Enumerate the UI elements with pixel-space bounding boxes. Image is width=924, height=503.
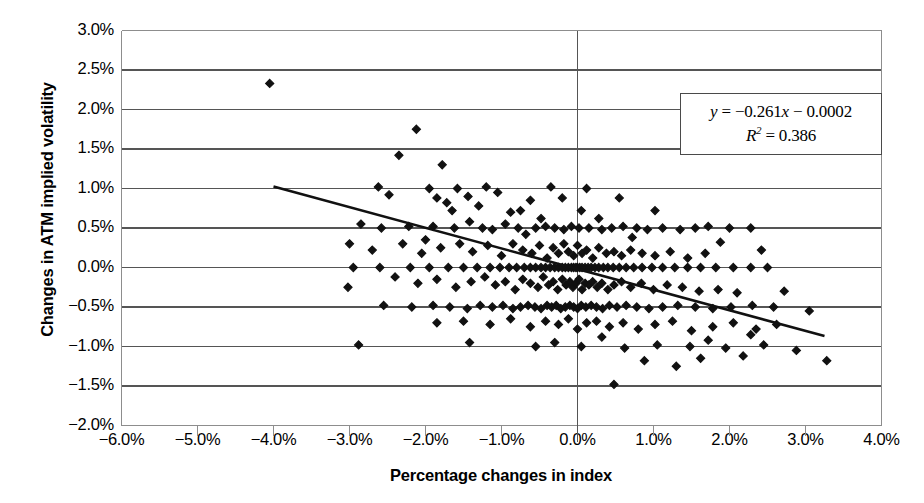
data-point-marker — [712, 263, 720, 271]
data-point-marker — [357, 220, 365, 228]
data-point-marker — [345, 240, 353, 248]
data-point-marker — [476, 301, 484, 309]
data-point-marker — [585, 224, 593, 232]
data-point-marker — [595, 244, 603, 252]
data-point-marker — [539, 273, 547, 281]
data-point-marker — [602, 249, 610, 257]
data-point-marker — [604, 286, 612, 294]
regression-equation-line: y = −0.261x − 0.0002 — [687, 101, 875, 123]
data-point-marker — [630, 263, 638, 271]
data-point-marker — [532, 224, 540, 232]
data-point-marker — [633, 224, 641, 232]
data-point-marker — [499, 301, 507, 309]
data-point-marker — [541, 317, 549, 325]
data-point-marker — [535, 241, 543, 249]
data-point-marker — [446, 303, 454, 311]
trend-line — [274, 187, 825, 336]
data-point-marker — [437, 244, 445, 252]
data-point-marker — [617, 252, 625, 260]
data-point-marker — [619, 319, 627, 327]
data-point-marker — [488, 225, 496, 233]
data-point-marker — [554, 320, 562, 328]
data-point-marker — [526, 196, 534, 204]
data-point-marker — [497, 252, 505, 260]
data-point-marker — [701, 249, 709, 257]
data-point-marker — [589, 254, 597, 262]
data-point-marker — [619, 222, 627, 230]
data-point-marker — [453, 184, 461, 192]
data-point-marker — [355, 341, 363, 349]
data-point-marker — [519, 275, 527, 283]
data-point-marker — [676, 225, 684, 233]
r-squared-symbol: R — [746, 125, 756, 144]
data-point-marker — [598, 333, 606, 341]
data-point-marker — [549, 244, 557, 252]
plot-area — [0, 0, 924, 503]
data-point-marker — [433, 319, 441, 327]
data-point-marker — [526, 323, 534, 331]
data-point-marker — [633, 303, 641, 311]
data-point-marker — [385, 191, 393, 199]
data-point-marker — [823, 357, 831, 365]
data-point-marker — [473, 263, 481, 271]
data-point-marker — [494, 188, 502, 196]
data-point-marker — [645, 304, 653, 312]
data-point-marker — [412, 125, 420, 133]
data-point-marker — [714, 286, 722, 294]
data-point-marker — [496, 263, 504, 271]
data-point-marker — [573, 241, 581, 249]
data-point-marker — [697, 263, 705, 271]
data-point-marker — [805, 307, 813, 315]
data-point-marker — [459, 263, 467, 271]
data-point-marker — [374, 183, 382, 191]
data-point-marker — [674, 301, 682, 309]
data-point-marker — [666, 248, 674, 256]
data-point-marker — [418, 249, 426, 257]
data-point-marker — [792, 346, 800, 354]
data-point-marker — [522, 230, 530, 238]
data-point-marker — [687, 327, 695, 335]
data-point-marker — [514, 224, 522, 232]
data-point-marker — [429, 301, 437, 309]
equation-tail: − 0.0002 — [789, 102, 852, 121]
data-point-marker — [651, 252, 659, 260]
data-point-marker — [465, 218, 473, 226]
data-point-marker — [452, 283, 460, 291]
data-point-marker — [501, 278, 509, 286]
data-point-marker — [747, 263, 755, 271]
data-point-marker — [733, 289, 741, 297]
data-point-marker — [567, 222, 575, 230]
data-point-marker — [583, 184, 591, 192]
data-point-marker — [622, 301, 630, 309]
data-point-marker — [534, 283, 542, 291]
data-point-marker — [448, 207, 456, 215]
data-point-marker — [704, 336, 712, 344]
data-point-marker — [621, 344, 629, 352]
equation-x-symbol: x — [782, 102, 789, 121]
data-point-marker — [695, 287, 703, 295]
data-point-marker — [729, 263, 737, 271]
data-point-marker — [391, 273, 399, 281]
data-point-marker — [638, 263, 646, 271]
data-point-marker — [456, 240, 464, 248]
data-point-marker — [653, 341, 661, 349]
data-point-marker — [760, 341, 768, 349]
data-point-marker — [651, 207, 659, 215]
data-point-marker — [266, 79, 274, 87]
data-point-marker — [481, 273, 489, 281]
data-point-marker — [414, 279, 422, 287]
data-point-marker — [686, 342, 694, 350]
data-point-marker — [598, 225, 606, 233]
r-squared-line: R2 = 0.386 — [687, 123, 875, 146]
data-point-marker — [541, 222, 549, 230]
data-point-marker — [463, 304, 471, 312]
data-point-marker — [691, 303, 699, 311]
data-point-marker — [672, 362, 680, 370]
data-point-marker — [583, 319, 591, 327]
data-point-marker — [747, 224, 755, 232]
data-point-marker — [551, 338, 559, 346]
data-point-marker — [729, 319, 737, 327]
data-point-marker — [763, 263, 771, 271]
data-point-marker — [368, 246, 376, 254]
data-point-marker — [465, 338, 473, 346]
